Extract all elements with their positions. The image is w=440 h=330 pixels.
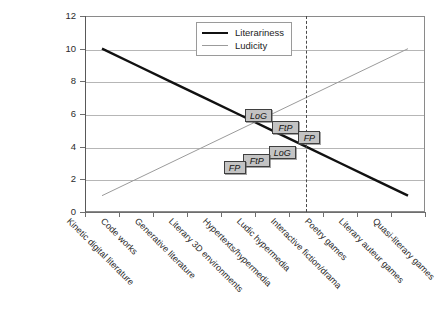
y-axis-tick-label: 10 xyxy=(48,44,76,54)
x-axis-tick-mark xyxy=(221,212,222,217)
x-axis-tick-mark xyxy=(187,212,188,217)
legend-label: Ludicity xyxy=(235,40,267,51)
marker-box: FtP xyxy=(272,121,299,134)
x-axis-tick-mark xyxy=(357,212,358,217)
x-axis-category-label: Generative literature xyxy=(133,216,198,281)
y-axis-tick-label: 2 xyxy=(48,174,76,184)
x-axis-tick-mark xyxy=(153,212,154,217)
legend-item: Ludicity xyxy=(202,39,284,52)
x-axis-category-label: Quasi-literary games xyxy=(371,216,437,282)
x-axis-tick-mark xyxy=(425,212,426,217)
marker-box: FP xyxy=(224,161,246,174)
y-axis-tick-label: 12 xyxy=(48,11,76,21)
x-axis-tick-mark xyxy=(323,212,324,217)
y-axis-tick-label: 6 xyxy=(48,109,76,119)
x-axis-category-label: Hypertexts/hypermedia xyxy=(201,216,274,289)
legend-label: Literariness xyxy=(235,27,284,38)
x-axis-tick-mark xyxy=(119,212,120,217)
marker-box: LoG xyxy=(245,109,272,122)
crossing-divider-line xyxy=(306,16,307,212)
marker-box: LoG xyxy=(269,146,296,159)
y-axis-tick-label: 8 xyxy=(48,76,76,86)
x-axis-category-label: Literary auteur games xyxy=(337,216,406,285)
legend: LiterarinessLudicity xyxy=(196,22,292,56)
legend-swatch-icon xyxy=(202,45,228,46)
y-axis-tick-label: 4 xyxy=(48,142,76,152)
x-axis-tick-mark xyxy=(289,212,290,217)
legend-item: Literariness xyxy=(202,26,284,39)
x-axis-tick-mark xyxy=(391,212,392,217)
chart-figure: 024681012 LiterarinessLudicity LoGFtPFPL… xyxy=(0,0,440,330)
legend-swatch-icon xyxy=(202,32,228,34)
x-axis-tick-mark xyxy=(85,212,86,217)
marker-box: FtP xyxy=(243,154,270,167)
x-axis-tick-mark xyxy=(255,212,256,217)
marker-box: FP xyxy=(298,131,320,144)
x-axis-category-label: Kinetic digital literature xyxy=(65,216,136,287)
